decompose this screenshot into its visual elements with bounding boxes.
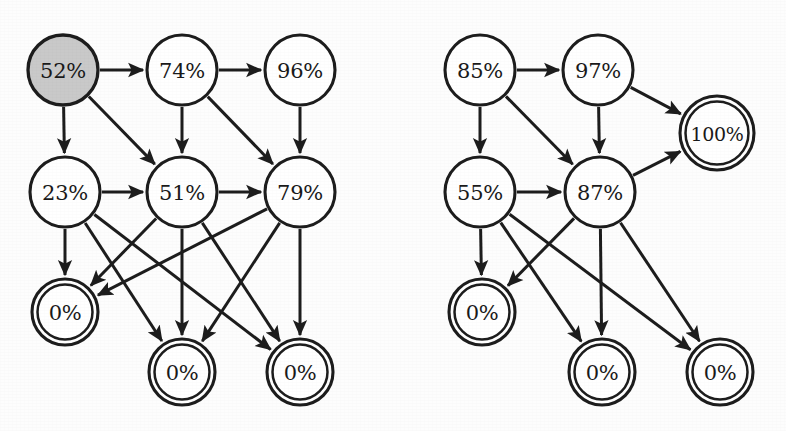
edge-r5-to-r6: [508, 218, 574, 285]
left-graph-nodes: 52%74%96%23%51%79%0%0%0%: [28, 35, 335, 405]
edge-l1-to-l4: [64, 107, 65, 153]
node-l7-0pct[interactable]: 0%: [32, 279, 98, 345]
right-graph-nodes: 85%97%100%55%87%0%0%0%: [445, 35, 754, 405]
edge-r4-to-r6: [481, 229, 482, 275]
node-r5-87pct[interactable]: 87%: [565, 157, 635, 227]
node-l2-74pct[interactable]: 74%: [147, 35, 217, 105]
edge-r2-to-r3: [631, 87, 681, 114]
graph-canvas: 52%74%96%23%51%79%0%0%0%85%97%100%55%87%…: [0, 0, 786, 431]
node-r4-55pct[interactable]: 55%: [445, 157, 515, 227]
node-r2-97pct[interactable]: 97%: [563, 35, 633, 105]
node-label: 0%: [284, 361, 317, 385]
node-l3-96pct[interactable]: 96%: [265, 35, 335, 105]
node-l5-51pct[interactable]: 51%: [147, 157, 217, 227]
node-label: 74%: [159, 59, 205, 83]
edge-r5-to-r8: [621, 223, 700, 341]
node-label: 0%: [166, 361, 199, 385]
node-label: 0%: [586, 361, 619, 385]
node-r6-0pct[interactable]: 0%: [449, 279, 515, 345]
edge-r1-to-r5: [506, 96, 573, 164]
node-label: 0%: [466, 301, 499, 325]
node-layer: 52%74%96%23%51%79%0%0%0%85%97%100%55%87%…: [28, 35, 754, 405]
node-label: 0%: [704, 361, 737, 385]
node-r3-100pct[interactable]: 100%: [680, 96, 754, 170]
node-label: 23%: [42, 181, 88, 205]
node-label: 87%: [577, 181, 623, 205]
node-l4-23pct[interactable]: 23%: [30, 157, 100, 227]
node-label: 100%: [690, 123, 743, 145]
edge-l2-to-l6: [208, 97, 273, 164]
edge-l1-to-l5: [89, 96, 155, 164]
node-l8-0pct[interactable]: 0%: [149, 339, 215, 405]
node-label: 96%: [277, 59, 323, 83]
edge-l5-to-l7: [91, 218, 156, 285]
node-label: 0%: [49, 301, 82, 325]
node-label: 85%: [457, 59, 503, 83]
node-label: 97%: [575, 59, 621, 83]
node-r1-85pct[interactable]: 85%: [445, 35, 515, 105]
node-label: 79%: [277, 181, 323, 205]
node-label: 55%: [457, 181, 503, 205]
edge-r5-to-r3: [633, 151, 680, 175]
node-label: 51%: [159, 181, 205, 205]
node-r8-0pct[interactable]: 0%: [687, 339, 753, 405]
node-l6-79pct[interactable]: 79%: [265, 157, 335, 227]
node-l9-0pct[interactable]: 0%: [267, 339, 333, 405]
node-label: 52%: [40, 59, 86, 83]
node-l1-52pct[interactable]: 52%: [28, 35, 98, 105]
figure-root: 52%74%96%23%51%79%0%0%0%85%97%100%55%87%…: [0, 0, 786, 431]
node-r7-0pct[interactable]: 0%: [569, 339, 635, 405]
edge-r2-to-r5: [599, 107, 600, 153]
